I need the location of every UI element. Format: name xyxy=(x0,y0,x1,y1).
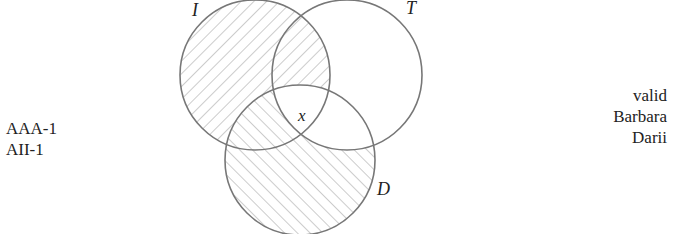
set-label-t: T xyxy=(406,0,418,18)
existence-marker: x xyxy=(297,106,306,125)
validity-label: valid xyxy=(613,85,667,106)
syllogism-name-darii: Darii xyxy=(613,127,667,148)
venn-diagram: I T D x xyxy=(0,0,694,234)
result-labels: valid Barbara Darii xyxy=(613,85,667,148)
syllogism-name-barbara: Barbara xyxy=(613,106,667,127)
set-label-i: I xyxy=(191,0,199,20)
set-label-d: D xyxy=(376,179,390,199)
